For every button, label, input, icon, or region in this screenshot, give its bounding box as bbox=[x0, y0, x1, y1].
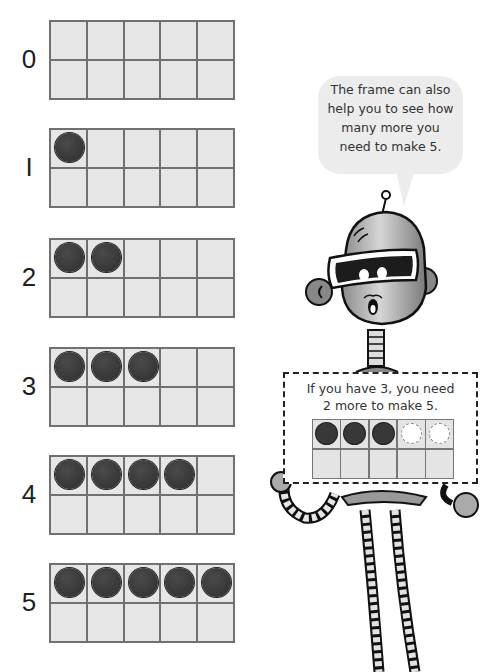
ten-frame-3 bbox=[49, 347, 235, 427]
counter-dot bbox=[373, 423, 394, 444]
frame-cell bbox=[198, 349, 233, 386]
frame-cell bbox=[88, 240, 123, 277]
ten-frame-5 bbox=[49, 563, 235, 643]
counter-dot bbox=[165, 460, 194, 489]
sign-line-1: If you have 3, you need bbox=[285, 380, 476, 397]
frame-cell bbox=[51, 604, 86, 641]
frame-cell bbox=[88, 169, 123, 206]
frame-cell bbox=[88, 130, 123, 167]
frame-cell bbox=[88, 457, 123, 494]
counter-dot bbox=[55, 352, 84, 381]
frame-cell bbox=[161, 565, 196, 602]
frame-label-0: 0 bbox=[14, 44, 44, 75]
frame-label-4: 4 bbox=[14, 479, 44, 510]
counter-dot bbox=[55, 133, 84, 162]
bubble-line-2: help you to see how bbox=[318, 99, 463, 118]
frame-cell bbox=[161, 130, 196, 167]
frame-cell bbox=[313, 420, 340, 448]
frame-cell bbox=[198, 61, 233, 98]
frame-cell bbox=[88, 388, 123, 425]
bubble-line-3: many more you bbox=[318, 118, 463, 137]
ten-frame-2 bbox=[49, 238, 235, 318]
frame-cell bbox=[161, 240, 196, 277]
frame-cell bbox=[198, 457, 233, 494]
counter-dot bbox=[165, 568, 194, 597]
frame-cell bbox=[426, 450, 453, 478]
example-ten-frame bbox=[312, 419, 454, 479]
counter-dot bbox=[92, 352, 121, 381]
counter-dot bbox=[129, 460, 158, 489]
frame-cell bbox=[198, 496, 233, 533]
ten-frame-4 bbox=[49, 455, 235, 535]
frame-cell bbox=[51, 565, 86, 602]
frame-cell bbox=[161, 457, 196, 494]
frame-cell bbox=[161, 388, 196, 425]
frame-cell bbox=[125, 279, 160, 316]
sign-line-2: 2 more to make 5. bbox=[285, 397, 476, 414]
empty-counter-outline bbox=[401, 423, 422, 444]
frame-label-2: 2 bbox=[14, 262, 44, 293]
frame-cell bbox=[51, 169, 86, 206]
frame-cell bbox=[125, 388, 160, 425]
counter-dot bbox=[129, 352, 158, 381]
frame-label-1: I bbox=[14, 152, 44, 183]
frame-cell bbox=[161, 604, 196, 641]
frame-cell bbox=[125, 457, 160, 494]
speech-bubble-tail bbox=[396, 172, 414, 206]
counter-dot bbox=[129, 568, 158, 597]
frame-cell bbox=[198, 130, 233, 167]
frame-cell bbox=[341, 420, 368, 448]
frame-cell bbox=[88, 22, 123, 59]
frame-cell bbox=[88, 565, 123, 602]
frame-cell bbox=[51, 457, 86, 494]
frame-cell bbox=[88, 279, 123, 316]
frame-cell bbox=[161, 279, 196, 316]
frame-cell bbox=[313, 450, 340, 478]
sign-text: If you have 3, you need 2 more to make 5… bbox=[285, 380, 476, 414]
frame-cell bbox=[198, 169, 233, 206]
frame-cell bbox=[51, 349, 86, 386]
frame-cell bbox=[198, 604, 233, 641]
frame-cell bbox=[398, 450, 425, 478]
counter-dot bbox=[344, 423, 365, 444]
frame-cell bbox=[198, 22, 233, 59]
frame-cell bbox=[51, 130, 86, 167]
frame-cell bbox=[161, 496, 196, 533]
frame-cell bbox=[125, 61, 160, 98]
empty-counter-outline bbox=[429, 423, 450, 444]
frame-cell bbox=[51, 240, 86, 277]
frame-cell bbox=[51, 61, 86, 98]
ten-frame-1 bbox=[49, 128, 235, 208]
frame-cell bbox=[198, 388, 233, 425]
frame-cell bbox=[398, 420, 425, 448]
example-sign: If you have 3, you need 2 more to make 5… bbox=[283, 372, 478, 484]
frame-label-5: 5 bbox=[14, 587, 44, 618]
frame-cell bbox=[88, 496, 123, 533]
frame-cell bbox=[125, 130, 160, 167]
counter-dot bbox=[92, 460, 121, 489]
frame-cell bbox=[161, 349, 196, 386]
frame-cell bbox=[88, 604, 123, 641]
frame-cell bbox=[88, 61, 123, 98]
frame-cell bbox=[198, 279, 233, 316]
frame-cell bbox=[125, 604, 160, 641]
frame-label-3: 3 bbox=[14, 371, 44, 402]
ten-frame-0 bbox=[49, 20, 235, 100]
frame-cell bbox=[125, 240, 160, 277]
frame-cell bbox=[125, 169, 160, 206]
frame-cell bbox=[51, 496, 86, 533]
frame-cell bbox=[426, 420, 453, 448]
frame-cell bbox=[51, 388, 86, 425]
antenna-icon bbox=[382, 191, 390, 215]
counter-dot bbox=[55, 568, 84, 597]
frame-cell bbox=[161, 61, 196, 98]
frame-cell bbox=[125, 349, 160, 386]
bubble-line-1: The frame can also bbox=[318, 80, 463, 99]
speech-bubble: The frame can also help you to see how m… bbox=[318, 76, 463, 174]
frame-cell bbox=[198, 565, 233, 602]
frame-cell bbox=[51, 279, 86, 316]
frame-cell bbox=[125, 22, 160, 59]
frame-cell bbox=[341, 450, 368, 478]
frame-cell bbox=[370, 450, 397, 478]
frame-cell bbox=[88, 349, 123, 386]
